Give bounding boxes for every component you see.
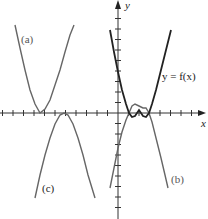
x-axis-arrow-icon [198,110,206,116]
curve-b-label: (b) [171,173,184,186]
x-axis-label: x [200,117,206,129]
x-axis [0,110,206,116]
curve-b [110,104,168,188]
curve-a-label: (a) [21,33,34,46]
y-axis-arrow-icon [115,0,121,9]
y-axis [115,0,121,219]
curve-f-label: y = f(x) [162,70,196,83]
curve-c-label: (c) [42,182,55,195]
y-axis-label: y [124,0,130,11]
function-transformation-chart: x y y = f(x) (a) (b) (c) [0,0,208,219]
